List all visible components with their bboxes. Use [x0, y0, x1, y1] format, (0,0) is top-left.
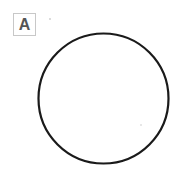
- faint-dot: [49, 18, 51, 20]
- faint-dot: [140, 124, 142, 126]
- circle-shape: [39, 34, 169, 164]
- figure-canvas: [0, 0, 178, 187]
